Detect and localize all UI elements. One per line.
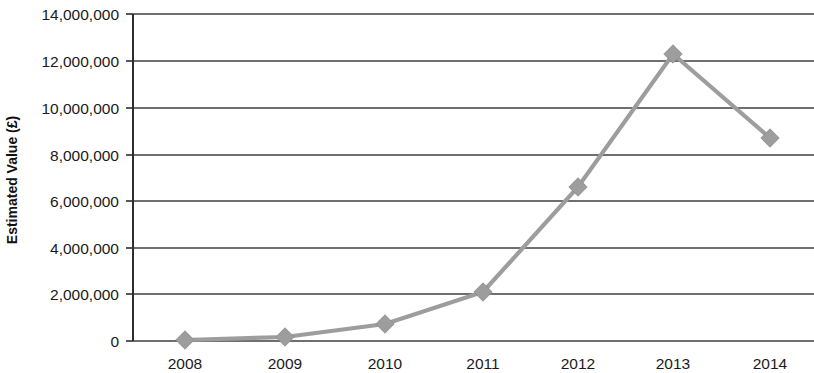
xtick-label-2009: 2009 [268, 355, 302, 372]
xtick-label-2012: 2012 [561, 355, 595, 372]
ytick-label-6000000: 6,000,000 [50, 193, 119, 210]
xtick-label-2010: 2010 [368, 355, 403, 372]
series-line-estimated-value [185, 54, 770, 340]
xtick-label-2014: 2014 [753, 355, 788, 372]
ytick-label-2000000: 2,000,000 [50, 286, 119, 303]
data-point-2010 [376, 315, 394, 333]
ytick-label-0: 0 [110, 333, 119, 350]
line-chart: 14,000,000 12,000,000 10,000,000 8,000,0… [0, 0, 814, 373]
series-markers [176, 45, 779, 349]
ytick-label-12000000: 12,000,000 [41, 53, 119, 70]
xtick-label-2008: 2008 [168, 355, 202, 372]
data-point-2009 [276, 328, 294, 346]
ytick-label-10000000: 10,000,000 [41, 100, 119, 117]
chart-canvas: 14,000,000 12,000,000 10,000,000 8,000,0… [0, 0, 814, 373]
x-axis-tick-labels: 2008 2009 2010 2011 2012 2013 2014 [168, 355, 788, 372]
ytick-label-14000000: 14,000,000 [41, 6, 119, 23]
data-point-2008 [176, 331, 194, 349]
xtick-label-2013: 2013 [656, 355, 690, 372]
ytick-label-4000000: 4,000,000 [50, 240, 119, 257]
y-axis-ticks [126, 14, 133, 341]
y-axis-tick-labels: 14,000,000 12,000,000 10,000,000 8,000,0… [41, 6, 119, 350]
ytick-label-8000000: 8,000,000 [50, 147, 119, 164]
xtick-label-2011: 2011 [466, 355, 499, 372]
y-axis-title: Estimated Value (£) [4, 116, 20, 244]
